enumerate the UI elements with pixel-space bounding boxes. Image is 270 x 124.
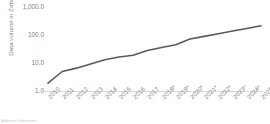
y-tick-label: 10.0 [14, 60, 44, 66]
footnote-text: Additional Information: [1, 120, 37, 124]
y-tick-label: 1.0 [14, 88, 44, 94]
y-tick-label: 1,000.0 [14, 4, 44, 10]
plot-area [44, 4, 263, 92]
y-tick-label: 100.0 [14, 32, 44, 38]
chart-container: Data volume in Zettabytes 1,000.0 100.0 … [0, 0, 270, 124]
x-axis-tick-labels: 201020112012201320142015201620172018*201… [44, 92, 263, 116]
data-series-line [44, 4, 263, 92]
y-axis-tick-labels: 1,000.0 100.0 10.0 1.0 [10, 0, 44, 124]
